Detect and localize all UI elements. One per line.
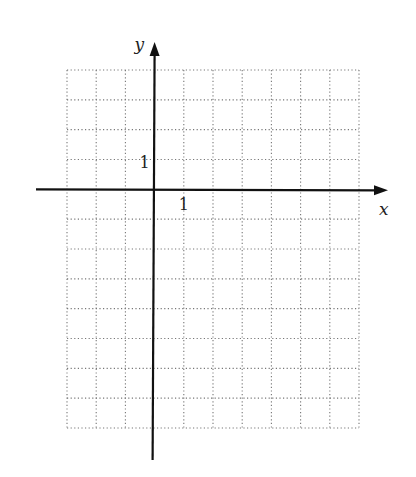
y-axis-arrow-icon [150,42,160,56]
y-axis [153,52,155,460]
y-axis-label: y [134,34,145,54]
y-tick-label: 1 [140,153,150,172]
x-axis-label: x [379,199,389,219]
x-axis [36,189,378,190]
x-tick-label: 1 [179,195,189,214]
axes [36,42,388,460]
dotted-grid [67,70,359,428]
coordinate-plane: x y 1 1 [0,0,416,477]
x-axis-arrow-icon [374,185,388,195]
